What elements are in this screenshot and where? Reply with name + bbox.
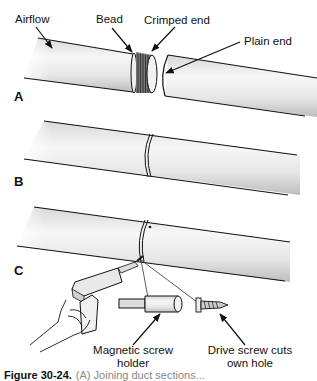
label-drive-line1: Drive screw cuts [200, 344, 300, 357]
magnetic-screw-holder-icon [119, 296, 182, 312]
panel-c-illustration [12, 204, 290, 352]
panel-b-illustration [20, 118, 300, 195]
label-bead: Bead [96, 13, 123, 26]
label-drive-line2: own hole [200, 357, 300, 370]
label-magnetic-line1: Magnetic screw [88, 344, 178, 357]
label-drive-screw: Drive screw cuts own hole [200, 344, 300, 370]
label-airflow: Airflow [15, 13, 50, 26]
caption-text: (A) Joining duct sections... [76, 369, 205, 381]
label-crimped-end: Crimped end [144, 14, 210, 27]
drive-screw-icon [196, 298, 228, 312]
panel-label-b: B [14, 174, 23, 189]
panel-label-a: A [14, 89, 23, 104]
label-magnetic-screw-holder: Magnetic screw holder [88, 344, 178, 370]
caption-number: Figure 30-24. [4, 369, 72, 381]
figure-caption: Figure 30-24.(A) Joining duct sections..… [4, 369, 205, 381]
panel-label-c: C [14, 263, 23, 278]
label-plain-end: Plain end [244, 35, 292, 48]
